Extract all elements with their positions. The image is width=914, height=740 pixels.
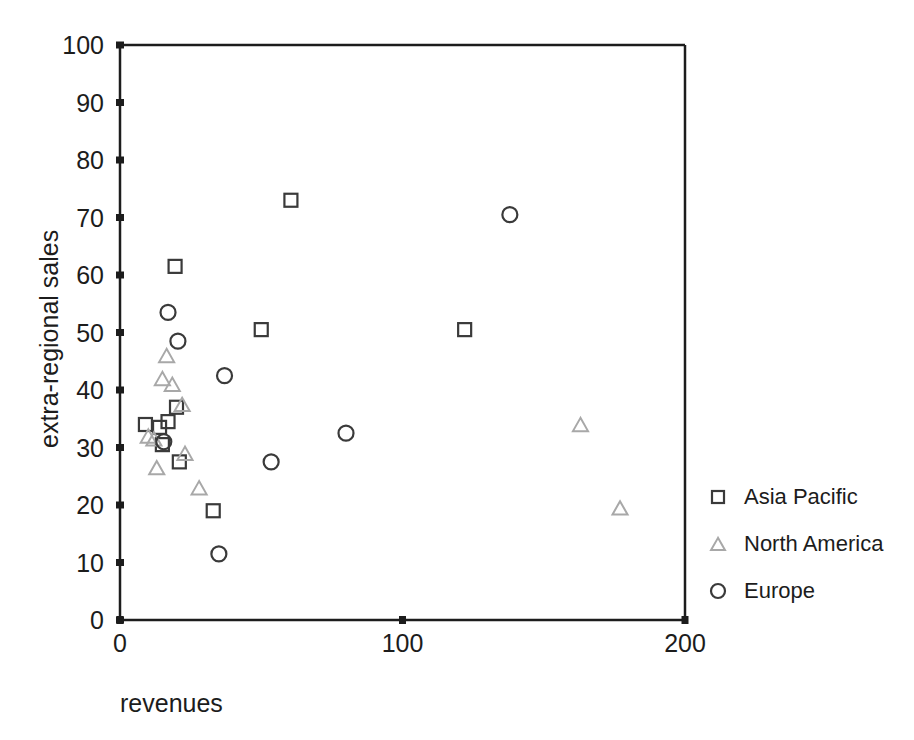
data-point-square	[169, 260, 182, 273]
legend-label: Europe	[744, 578, 815, 603]
y-axis-title: extra-regional sales	[35, 230, 63, 448]
legend-item-asia-pacific[interactable]: Asia Pacific	[712, 484, 858, 509]
data-point-square	[284, 194, 297, 207]
legend-item-north-america[interactable]: North America	[711, 531, 884, 556]
y-tick-mark	[116, 387, 124, 394]
x-tick-label: 0	[113, 629, 127, 657]
y-tick-mark	[116, 99, 124, 106]
y-tick-mark	[116, 329, 124, 336]
x-tick-label: 100	[382, 629, 424, 657]
legend: Asia PacificNorth AmericaEurope	[711, 484, 884, 603]
x-tick-mark	[399, 616, 406, 624]
legend-marker-triangle	[711, 538, 725, 550]
legend-marker-square	[712, 491, 724, 503]
y-tick-label: 80	[76, 146, 104, 174]
y-tick-mark	[116, 214, 124, 221]
data-point-triangle	[192, 481, 207, 494]
y-tick-label: 10	[76, 549, 104, 577]
data-point-triangle	[149, 461, 164, 474]
x-tick-mark	[117, 616, 124, 624]
data-point-square	[139, 418, 152, 431]
series-north-america	[141, 349, 628, 515]
legend-label: North America	[744, 531, 884, 556]
y-tick-label: 70	[76, 204, 104, 232]
legend-item-europe[interactable]: Europe	[711, 578, 815, 603]
y-tick-label: 90	[76, 89, 104, 117]
legend-marker-circle	[711, 584, 725, 598]
x-tick-label: 200	[664, 629, 706, 657]
y-tick-mark	[116, 559, 124, 566]
y-tick-mark	[116, 272, 124, 279]
plot-frame	[120, 45, 685, 620]
series-asia-pacific	[139, 194, 471, 518]
y-tick-label: 0	[90, 606, 104, 634]
data-point-square	[255, 323, 268, 336]
data-point-circle	[161, 305, 176, 320]
y-tick-label: 50	[76, 319, 104, 347]
data-point-triangle	[612, 501, 627, 514]
data-point-layer	[139, 194, 628, 562]
y-tick-label: 40	[76, 376, 104, 404]
data-point-square	[458, 323, 471, 336]
data-point-circle	[170, 334, 185, 349]
data-point-triangle	[155, 372, 170, 385]
data-point-triangle	[159, 349, 174, 362]
y-axis-ticks: 0102030405060708090100	[62, 31, 124, 634]
x-axis-ticks: 0100200	[113, 616, 706, 657]
y-tick-mark	[116, 42, 124, 49]
series-europe	[156, 207, 517, 561]
x-axis-title: revenues	[120, 689, 223, 717]
y-tick-label: 100	[62, 31, 104, 59]
x-tick-mark	[682, 616, 689, 624]
y-tick-mark	[116, 502, 124, 509]
y-tick-mark	[116, 157, 124, 164]
y-tick-label: 20	[76, 491, 104, 519]
data-point-circle	[211, 546, 226, 561]
y-tick-label: 30	[76, 434, 104, 462]
scatter-chart-canvas: 0102030405060708090100 0100200 extra-reg…	[0, 0, 914, 740]
data-point-circle	[217, 368, 232, 383]
y-tick-label: 60	[76, 261, 104, 289]
y-tick-mark	[116, 444, 124, 451]
legend-label: Asia Pacific	[744, 484, 858, 509]
chart-svg: 0102030405060708090100 0100200 extra-reg…	[0, 0, 914, 740]
data-point-circle	[264, 454, 279, 469]
data-point-triangle	[573, 418, 588, 431]
data-point-circle	[502, 207, 517, 222]
data-point-circle	[339, 426, 354, 441]
data-point-square	[207, 504, 220, 517]
